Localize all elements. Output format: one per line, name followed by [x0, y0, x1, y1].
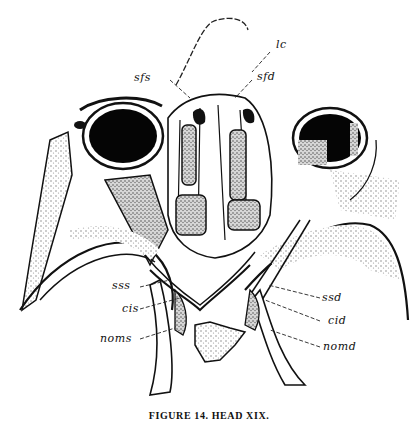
anatomical-drawing: [0, 0, 418, 431]
label-sfs: sfs: [134, 71, 151, 84]
left-pillar: [150, 280, 172, 395]
label-sss: sss: [112, 279, 130, 292]
label-sfd: sfd: [257, 70, 275, 83]
label-cis: cis: [122, 302, 139, 315]
pterygoid: [195, 322, 245, 362]
left-zygoma: [22, 132, 72, 310]
label-lc: lc: [276, 38, 287, 51]
label-cid: cid: [328, 314, 346, 327]
right-pillar: [252, 290, 305, 385]
right-zygoma: [330, 170, 400, 220]
label-ssd: ssd: [322, 291, 342, 304]
figure-caption: FIGURE 14. HEAD XIX.: [0, 410, 418, 421]
cranial-outline: [176, 18, 248, 85]
label-noms: noms: [100, 332, 132, 345]
label-nomd: nomd: [323, 340, 356, 353]
